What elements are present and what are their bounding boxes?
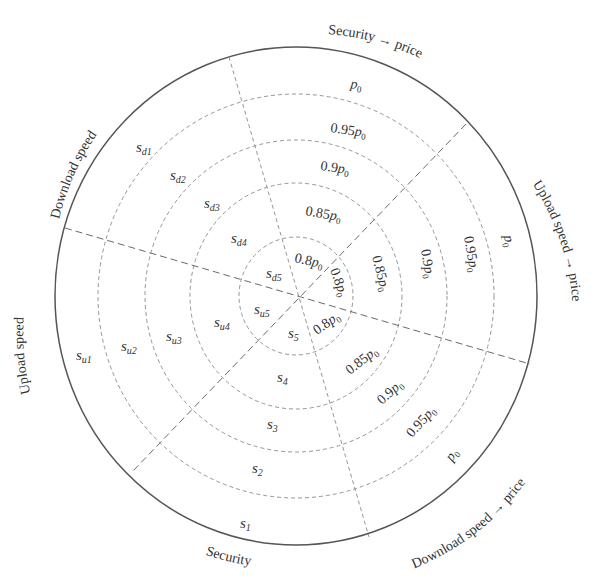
upload-speed-levels: su1 su2 su3 su4 su5	[76, 301, 270, 365]
security-price-levels: p0 0.95p0 0.9p0 0.85p0 0.8p0	[293, 76, 368, 273]
label-su3: su3	[166, 328, 182, 346]
price-09-right: 0.9p0	[416, 248, 438, 280]
label-sd5: sd5	[266, 265, 282, 283]
label-sd4: sd4	[231, 230, 247, 248]
label-s5: s5	[288, 325, 299, 343]
outer-circle	[55, 47, 537, 545]
download-speed-levels: sd1 sd2 sd3 sd4 sd5	[136, 139, 282, 283]
price-p0-right: p0	[499, 233, 518, 249]
label-su4: su4	[214, 314, 230, 332]
label-su5: su5	[254, 301, 270, 319]
label-sd1: sd1	[136, 139, 152, 157]
download-speed-price-levels: p0 0.95p0 0.9p0 0.85p0 0.8p0	[310, 308, 463, 465]
axis-label-upload-speed: Upload speed	[11, 317, 33, 396]
label-sd3: sd3	[204, 195, 220, 213]
axis-label-download-speed-price: Download speed → price	[409, 475, 528, 571]
price-085-right: 0.85p0	[367, 254, 393, 294]
security-levels: s1 s2 s3 s4 s5	[240, 325, 299, 533]
price-095-right: 0.95p0	[459, 235, 482, 274]
price-095-top: 0.95p0	[329, 120, 368, 142]
price-09-bottom: 0.9p0	[374, 376, 407, 408]
axis-label-download-speed: Download speed	[47, 128, 99, 221]
label-s3: s3	[267, 416, 278, 434]
price-p0-top: p0	[348, 76, 363, 95]
label-sd2: sd2	[170, 167, 186, 185]
ring-0.85	[190, 183, 402, 409]
price-08-bottom: 0.8p0	[310, 308, 344, 339]
upload-speed-price-levels: p0 0.95p0 0.9p0 0.85p0 0.8p0	[325, 233, 518, 299]
label-s2: s2	[252, 460, 263, 478]
label-s4: s4	[277, 369, 288, 387]
ring-0.95	[98, 94, 494, 498]
label-su2: su2	[121, 338, 137, 356]
label-su1: su1	[76, 347, 92, 365]
price-09-top: 0.9p0	[319, 158, 351, 179]
axis-label-security-price: Security → price	[328, 22, 425, 61]
price-085-top: 0.85p0	[304, 203, 343, 226]
qos-price-ring-diagram: Security → price Download speed Upload s…	[0, 0, 594, 588]
price-085-bottom: 0.85p0	[343, 343, 382, 379]
price-p0-bottom: p0	[442, 445, 463, 465]
axis-label-upload-speed-price: Upload speed → price	[530, 177, 584, 302]
divider-horizontal	[65, 228, 530, 364]
price-095-bottom: 0.95p0	[403, 403, 440, 442]
price-rings	[98, 94, 494, 498]
axis-label-security: Security	[204, 543, 252, 568]
sector-dividers	[65, 57, 530, 537]
price-08-top: 0.8p0	[293, 250, 325, 273]
label-s1: s1	[240, 515, 251, 533]
